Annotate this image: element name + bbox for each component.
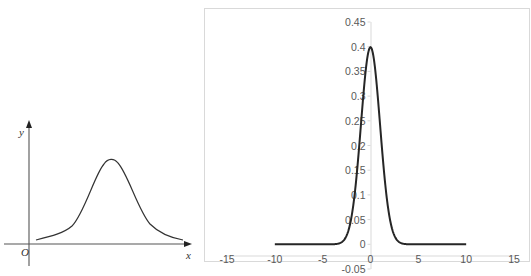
- y-tick-label: 0.05: [345, 214, 366, 226]
- x-tick-label: -15: [219, 253, 234, 265]
- schematic-bell-curve-chart: y O x: [0, 110, 200, 276]
- x-tick-label: 10: [460, 253, 472, 265]
- x-tick-label: 5: [415, 253, 421, 265]
- bell-curve: [36, 159, 183, 240]
- y-tick-label: 0: [360, 238, 366, 250]
- x-tick-label: 0: [368, 253, 374, 265]
- origin-label: O: [21, 246, 29, 258]
- y-tick-label: 0.4: [351, 41, 366, 53]
- x-tick-labels: -15-10-5051015: [219, 253, 520, 265]
- y-tick-label: 0.35: [345, 65, 366, 77]
- x-axis-arrow-icon: [184, 241, 192, 247]
- x-tick-label: -5: [318, 253, 327, 265]
- y-axis-arrow-icon: [26, 120, 32, 128]
- y-tick-label: 0.45: [345, 16, 366, 28]
- y-tick-label: -0.05: [342, 263, 366, 275]
- y-tick-labels: -0.0500.050.10.150.20.250.30.350.40.45: [342, 16, 366, 275]
- normal-pdf-chart: -0.0500.050.10.150.20.250.30.350.40.45 -…: [204, 8, 530, 262]
- schematic-chart-svg: y O x: [0, 110, 200, 276]
- x-tick-label: -10: [267, 253, 282, 265]
- x-axis-label: x: [185, 249, 191, 261]
- x-tick-label: 15: [508, 253, 520, 265]
- normal-pdf-chart-svg: -0.0500.050.10.150.20.250.30.350.40.45 -…: [205, 9, 531, 263]
- y-tick-label: 0.15: [345, 164, 366, 176]
- y-axis-label: y: [18, 126, 24, 138]
